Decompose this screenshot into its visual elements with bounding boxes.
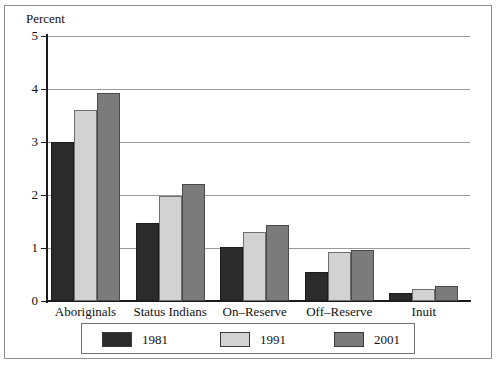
legend-label-1991: 1991 [260,333,286,346]
y-axis-tick-label: 1 [12,241,38,254]
legend-swatch-1991 [220,332,250,347]
legend-item-1981[interactable]: 1981 [102,331,168,347]
y-axis-tick-label: 5 [12,29,38,42]
y-axis-tick-label: 4 [12,82,38,95]
bar-1981-inuit [389,293,412,301]
plot-area [47,36,470,301]
legend-swatch-1981 [102,332,132,347]
bar-1981-aboriginals [51,142,74,301]
bar-group [51,36,120,301]
x-axis-label-inuit: Inuit [364,304,484,320]
legend-swatch-2001 [334,332,364,347]
bar-1991-off-reserve [328,252,351,301]
bar-2001-aboriginals [97,93,120,301]
bar-group [136,36,205,301]
bar-1991-on-reserve [243,232,266,301]
bar-group [305,36,374,301]
bar-1981-status-indians [136,223,159,301]
chart-legend: 198119912001 [81,323,415,354]
bar-2001-status-indians [182,184,205,301]
bar-group [220,36,289,301]
bar-2001-on-reserve [266,225,289,301]
bar-1981-on-reserve [220,247,243,301]
bar-2001-off-reserve [351,250,374,301]
y-axis-title: Percent [26,11,65,27]
y-axis-tick-label: 2 [12,188,38,201]
bar-1991-status-indians [159,196,182,301]
legend-label-1981: 1981 [142,333,168,346]
legend-label-2001: 2001 [374,333,400,346]
bar-1991-inuit [412,289,435,301]
bar-1991-aboriginals [74,110,97,301]
bar-group [389,36,458,301]
legend-item-2001[interactable]: 2001 [334,331,400,347]
legend-item-1991[interactable]: 1991 [220,331,286,347]
bar-1981-off-reserve [305,272,328,301]
chart-figure: Percent 012345 AboriginalsStatus Indians… [0,0,498,366]
y-axis-tick-label: 3 [12,135,38,148]
bar-2001-inuit [435,286,458,301]
